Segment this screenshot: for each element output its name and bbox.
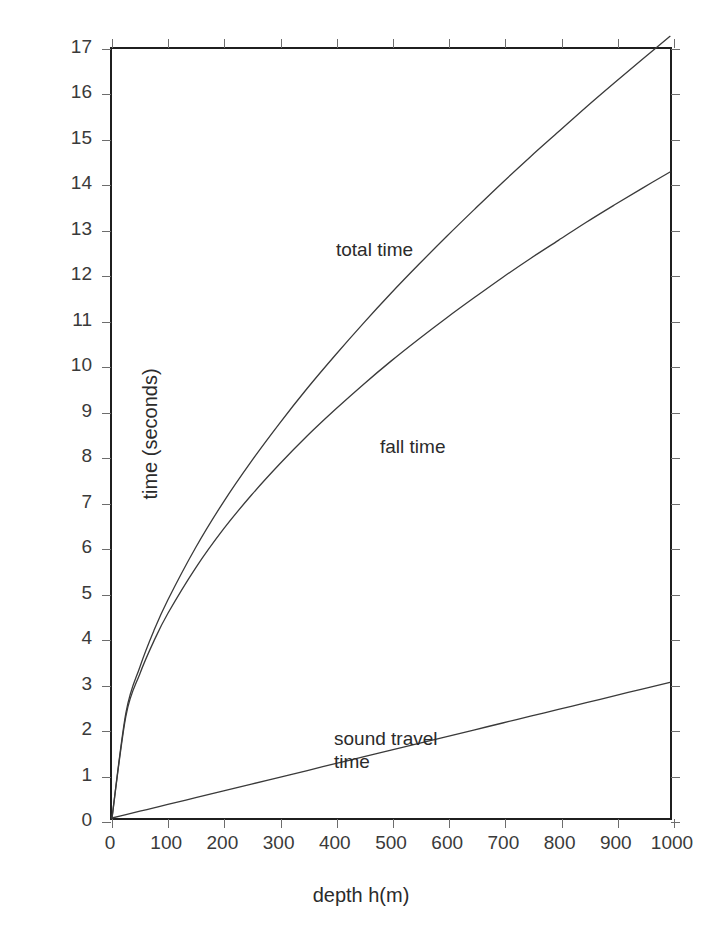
series-label-fall-time: fall time — [380, 435, 445, 458]
y-axis-tick — [102, 504, 111, 505]
series-label-sound-travel-time: sound travel time — [334, 727, 438, 773]
y-axis-tick — [671, 549, 680, 550]
x-axis-tick — [168, 819, 169, 828]
x-axis-tick-label: 100 — [150, 832, 182, 854]
x-axis-tick-label: 500 — [375, 832, 407, 854]
x-axis-tick — [562, 39, 563, 48]
x-axis-tick — [112, 39, 113, 48]
y-axis-tick — [102, 595, 111, 596]
y-axis-tick — [102, 367, 111, 368]
y-axis-tick — [102, 276, 111, 277]
x-axis-title: depth h(m) — [0, 884, 722, 907]
x-axis-tick — [168, 39, 169, 48]
y-axis-tick — [671, 595, 680, 596]
y-axis-tick — [102, 49, 111, 50]
y-axis-tick — [671, 322, 680, 323]
x-axis-tick — [505, 39, 506, 48]
x-axis-tick — [393, 39, 394, 48]
x-axis-tick — [224, 819, 225, 828]
y-axis-tick — [102, 231, 111, 232]
y-axis-tick — [102, 777, 111, 778]
x-axis-tick — [112, 819, 113, 828]
y-axis-tick — [102, 185, 111, 186]
y-axis-tick — [671, 94, 680, 95]
y-axis-tick — [671, 777, 680, 778]
y-axis-tick-label: 13 — [0, 218, 92, 240]
y-axis-tick — [102, 686, 111, 687]
y-axis-tick — [102, 640, 111, 641]
y-axis-tick-label: 14 — [0, 172, 92, 194]
y-axis-tick-label: 2 — [0, 718, 92, 740]
y-axis-tick — [102, 140, 111, 141]
y-axis-tick — [671, 413, 680, 414]
x-axis-tick-label: 0 — [105, 832, 116, 854]
y-axis-tick-label: 5 — [0, 582, 92, 604]
y-axis-tick-label: 17 — [0, 36, 92, 58]
y-axis-tick-label: 6 — [0, 536, 92, 558]
y-axis-tick-label: 9 — [0, 400, 92, 422]
y-axis-tick — [671, 276, 680, 277]
x-axis-tick — [337, 39, 338, 48]
y-axis-tick-label: 10 — [0, 354, 92, 376]
y-axis-tick — [671, 231, 680, 232]
x-axis-tick-label: 1000 — [651, 832, 693, 854]
y-axis-tick — [671, 458, 680, 459]
x-axis-tick — [505, 819, 506, 828]
y-axis-tick-label: 4 — [0, 627, 92, 649]
x-axis-tick-label: 200 — [207, 832, 239, 854]
y-axis-tick-label: 12 — [0, 263, 92, 285]
curve-total-time — [112, 36, 670, 818]
y-axis-tick — [102, 94, 111, 95]
y-axis-tick-label: 3 — [0, 673, 92, 695]
x-axis-tick-label: 400 — [319, 832, 351, 854]
x-axis-tick-label: 900 — [600, 832, 632, 854]
y-axis-tick — [671, 185, 680, 186]
x-axis-tick — [674, 819, 675, 828]
x-axis-tick-label: 700 — [488, 832, 520, 854]
y-axis-tick — [671, 49, 680, 50]
y-axis-tick — [671, 731, 680, 732]
y-axis-tick — [102, 322, 111, 323]
x-axis-tick — [281, 819, 282, 828]
y-axis-tick — [671, 686, 680, 687]
y-axis-tick — [102, 731, 111, 732]
y-axis-tick-label: 1 — [0, 764, 92, 786]
x-axis-tick-label: 600 — [431, 832, 463, 854]
y-axis-tick-label: 8 — [0, 445, 92, 467]
plot-area: time (seconds) total time fall time soun… — [110, 47, 672, 820]
y-axis-tick — [671, 822, 680, 823]
y-axis-tick — [671, 504, 680, 505]
y-axis-tick-label: 11 — [0, 309, 92, 331]
x-axis-tick-label: 800 — [544, 832, 576, 854]
y-axis-tick-label: 0 — [0, 809, 92, 831]
curve-fall-time — [112, 172, 670, 818]
y-axis-tick — [671, 640, 680, 641]
x-axis-tick — [562, 819, 563, 828]
x-axis-tick — [618, 819, 619, 828]
x-axis-tick — [393, 819, 394, 828]
y-axis-tick — [671, 140, 680, 141]
y-axis-tick-label: 16 — [0, 81, 92, 103]
x-axis-tick — [618, 39, 619, 48]
y-axis-tick-label: 15 — [0, 127, 92, 149]
y-axis-tick — [102, 549, 111, 550]
y-axis-tick — [102, 458, 111, 459]
y-axis-tick-label: 7 — [0, 491, 92, 513]
series-label-total-time: total time — [336, 238, 413, 261]
x-axis-tick-label: 300 — [263, 832, 295, 854]
y-axis-tick — [671, 367, 680, 368]
x-axis-tick — [449, 819, 450, 828]
x-axis-tick — [674, 39, 675, 48]
x-axis-tick — [224, 39, 225, 48]
x-axis-tick — [281, 39, 282, 48]
y-axis-tick — [102, 413, 111, 414]
y-axis-tick — [102, 822, 111, 823]
x-axis-tick — [449, 39, 450, 48]
chart-figure: 01234567891011121314151617 0100200300400… — [0, 0, 722, 931]
x-axis-tick — [337, 819, 338, 828]
chart-curves — [112, 49, 670, 818]
